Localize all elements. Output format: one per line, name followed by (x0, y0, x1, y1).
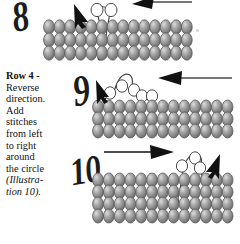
instruction-line: direction. (6, 93, 68, 105)
left-arrow-icon (158, 71, 232, 85)
illustration-10 (92, 144, 240, 234)
bead-row (93, 124, 233, 138)
instruction-line: from left (6, 128, 68, 140)
bead-row (44, 20, 193, 34)
illustration-8 (42, 0, 192, 66)
dust-speck (196, 29, 199, 32)
instruction-line: the circle (6, 163, 68, 175)
new-bead-group (91, 3, 117, 16)
illustration-reference: tion 10). (6, 186, 68, 198)
instruction-line: Reverse (6, 82, 68, 94)
new-bead-group (104, 80, 157, 102)
illustration-reference: (Illustra- (6, 174, 68, 186)
instruction-line: stitches (6, 116, 68, 128)
figure-number-8: 8 (8, 0, 32, 42)
bead-row (44, 46, 193, 60)
bead-row (93, 209, 233, 223)
instruction-text-block: Row 4 - Reverse direction. Add stitches … (6, 70, 68, 198)
illustration-9 (92, 66, 240, 134)
right-arrow-icon (104, 145, 174, 159)
new-bead-group (176, 152, 205, 174)
instruction-line: Add (6, 105, 68, 117)
illustration-page: Row 4 - Reverse direction. Add stitches … (0, 0, 240, 244)
bead-grid (93, 100, 233, 138)
bead-grid (44, 20, 193, 60)
instruction-heading: Row 4 - (6, 70, 68, 82)
figure-number-9: 9 (70, 65, 93, 116)
bead-row (44, 33, 193, 47)
left-arrow-icon (132, 0, 192, 9)
instruction-line: to right (6, 140, 68, 152)
bead-grid (93, 173, 233, 223)
instruction-line: around (6, 151, 68, 163)
